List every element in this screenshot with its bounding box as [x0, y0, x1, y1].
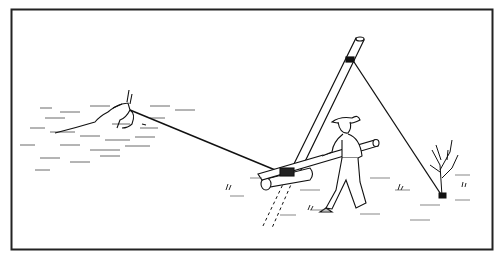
rope: [130, 110, 280, 172]
lever: [258, 140, 379, 191]
mud-area: [20, 106, 195, 170]
guy-line: [354, 62, 442, 196]
frame: [12, 10, 493, 250]
illustration: [0, 0, 502, 260]
man: [320, 116, 366, 212]
bush: [430, 140, 458, 198]
